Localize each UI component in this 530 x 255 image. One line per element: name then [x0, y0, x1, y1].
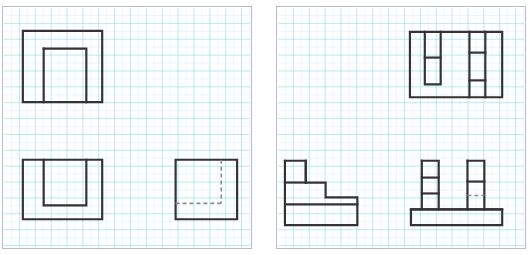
drawing-panel-left[interactable]: [2, 6, 252, 249]
projection-view-side-view[interactable]: [411, 161, 502, 225]
projection-view-side-view[interactable]: [176, 160, 238, 220]
left-margin: [0, 0, 2, 1]
object-line: [44, 160, 87, 206]
projection-view-front-view[interactable]: [285, 161, 357, 225]
drawing-layer-right: [277, 7, 525, 248]
object-line: [176, 160, 238, 220]
object-line: [285, 161, 357, 225]
object-line: [23, 31, 102, 102]
drawing-panel-right[interactable]: [276, 6, 526, 249]
projection-view-top-view[interactable]: [410, 32, 502, 97]
projection-view-front-view[interactable]: [23, 160, 102, 220]
object-line: [422, 161, 439, 210]
worksheet-canvas: [0, 0, 530, 255]
object-line: [23, 160, 102, 220]
projection-view-top-view[interactable]: [23, 31, 102, 102]
object-line: [44, 49, 87, 103]
object-line: [467, 161, 484, 210]
panel-gutter: [252, 0, 276, 1]
object-line: [411, 209, 502, 225]
drawing-layer-left: [3, 7, 251, 248]
